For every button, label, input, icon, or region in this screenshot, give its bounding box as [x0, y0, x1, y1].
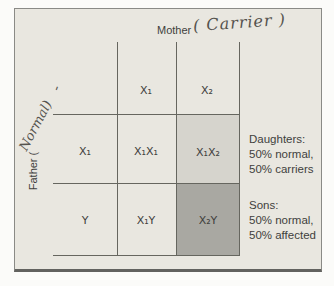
daughters-result-line1: 50% normal,: [249, 147, 314, 162]
grid-vertical-line-3: [239, 42, 240, 255]
mother-label: Mother: [157, 24, 191, 36]
col-header-x2: X₂: [201, 84, 213, 97]
row-header-y: Y: [82, 214, 89, 227]
punnett-square-figure: Mother ( Carrier ) Father ( Normal) ' X₁…: [0, 0, 334, 286]
cell-x1x2: X₁X₂: [196, 146, 220, 159]
col-header-x1: X₁: [140, 84, 152, 97]
cell-x1x1: X₁X₁: [134, 145, 158, 158]
row-header-x1: X₁: [79, 145, 91, 158]
grid-horizontal-line-1: [53, 114, 240, 115]
grid-vertical-line-1: [117, 42, 118, 255]
cell-x1y: X₁Y: [137, 214, 156, 227]
grid-vertical-line-2: [176, 42, 177, 255]
sons-result-title: Sons:: [249, 198, 316, 213]
grid-horizontal-line-2: [53, 183, 240, 184]
sons-result-line2: 50% affected: [249, 228, 316, 243]
sons-result-line1: 50% normal,: [249, 213, 316, 228]
daughters-result-title: Daughters:: [249, 132, 314, 147]
daughters-result-line2: 50% carriers: [249, 162, 314, 177]
cell-x2y: X₂Y: [199, 214, 218, 227]
grid-horizontal-line-3: [53, 255, 240, 256]
daughters-result-note: Daughters: 50% normal, 50% carriers: [249, 132, 314, 177]
sons-result-note: Sons: 50% normal, 50% affected: [249, 198, 316, 243]
